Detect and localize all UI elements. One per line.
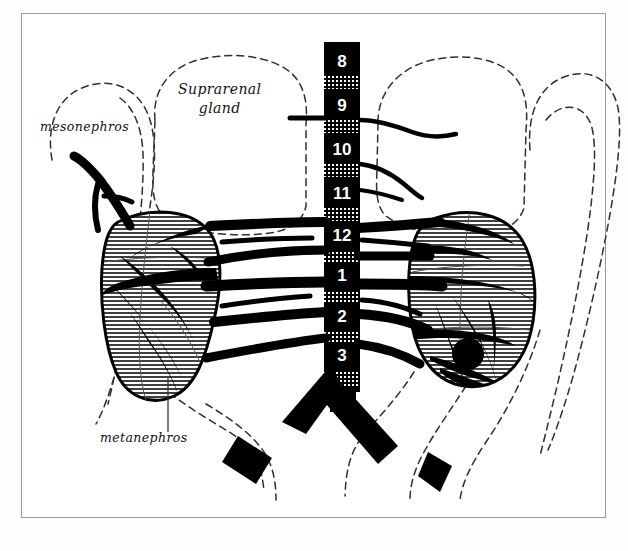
vertebra-label-t12: 12 [325, 227, 359, 244]
left-iliac-distal-segment [222, 436, 272, 484]
mesonephros-label: mesonephros [40, 119, 129, 134]
left-metanephros-kidney [100, 212, 220, 400]
left-mesonephric-vessel [74, 156, 132, 230]
suprarenal-gland-label-line1: Suprarenal [178, 80, 261, 99]
diagram-canvas [0, 0, 628, 551]
left-renal-arteries [206, 222, 326, 358]
vertebra-label-t11: 11 [325, 185, 359, 202]
right-suprarenal-artery-1 [360, 120, 456, 136]
vertebra-label-t9: 9 [325, 97, 359, 114]
anatomical-figure: 8 9 10 11 12 1 2 3 Suprarenal gland meso… [0, 0, 628, 551]
right-mesonephros-outline-inner [540, 107, 595, 456]
metanephros-label: metanephros [100, 430, 188, 445]
aorta-and-iliac-arteries [222, 366, 452, 492]
left-renal-artery-4 [214, 312, 326, 322]
right-metanephros-kidney [409, 210, 535, 392]
right-renal-artery-5 [358, 344, 420, 364]
left-accessory-renal-branch [222, 238, 312, 242]
left-accessory-renal-branch-2 [222, 296, 310, 306]
suprarenal-arteries [290, 118, 456, 200]
vertebra-label-l3: 3 [325, 347, 359, 364]
vertebra-label-l2: 2 [325, 308, 359, 325]
right-renal-artery-3 [358, 284, 442, 286]
suprarenal-gland-label-line2: gland [178, 99, 261, 118]
right-mesonephros-outline [530, 74, 620, 450]
left-renal-artery-5 [206, 338, 326, 358]
left-renal-artery-2 [208, 250, 326, 262]
left-renal-artery-1 [210, 222, 326, 226]
right-suprarenal-artery-3 [360, 190, 402, 200]
right-renal-artery-1 [358, 222, 440, 228]
vertebra-label-t10: 10 [325, 141, 359, 158]
suprarenal-gland-label: Suprarenal gland [178, 80, 261, 118]
left-common-iliac-artery-upper [326, 384, 398, 464]
left-renal-artery-3 [206, 282, 326, 286]
vertebra-label-l1: 1 [325, 267, 359, 284]
vertebra-label-t8: 8 [325, 53, 359, 70]
right-iliac-distal-segment [418, 452, 452, 492]
right-suprarenal-gland-outline [377, 57, 527, 236]
